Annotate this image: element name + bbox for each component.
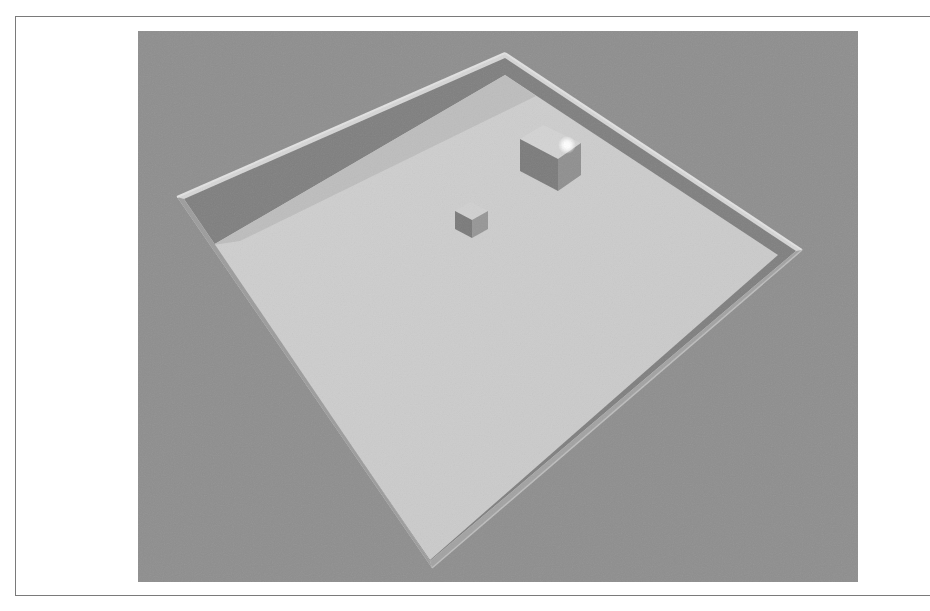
render-grain [138, 31, 858, 582]
render-viewport[interactable] [138, 31, 858, 582]
scene-canvas [138, 31, 858, 582]
